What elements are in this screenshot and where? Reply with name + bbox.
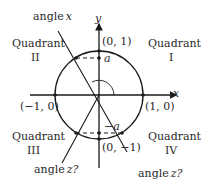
- point-z4-intersect: [120, 131, 124, 135]
- x-axis-label: x: [173, 87, 180, 100]
- point-bottom: [97, 137, 101, 141]
- quadrant-iii-numeral: III: [27, 144, 40, 157]
- point-a-bottom: [97, 131, 101, 135]
- angle-arc: [92, 80, 114, 95]
- label-a-top: a: [104, 52, 111, 65]
- label-top-point: (0, 1): [102, 35, 132, 48]
- quadrant-ii-numeral: II: [31, 51, 40, 64]
- angle-z-q4-label: anglez?: [138, 167, 183, 180]
- unit-circle-diagram: y x (0, 1) (0, −1) (−1, 0) (1, 0) a −a Q…: [0, 0, 214, 188]
- point-x-intersect: [74, 56, 78, 60]
- label-a-bottom: −a: [104, 120, 120, 133]
- point-left: [53, 93, 57, 97]
- point-top: [97, 49, 101, 53]
- angle-x-label: anglex: [33, 10, 73, 23]
- quadrant-i-word: Quadrant: [148, 37, 202, 50]
- label-right-point: (1, 0): [145, 100, 175, 113]
- point-right: [141, 93, 145, 97]
- quadrant-i-numeral: I: [169, 51, 173, 64]
- quadrant-iii-word: Quadrant: [12, 130, 66, 143]
- quadrant-ii-word: Quadrant: [12, 37, 66, 50]
- angle-z-ray-q3: [62, 95, 99, 163]
- label-bottom-point: (0, −1): [102, 141, 141, 154]
- point-z3-intersect: [74, 131, 78, 135]
- angle-z-q3-label: anglez?: [34, 163, 79, 176]
- angle-x-ray: [58, 31, 127, 152]
- quadrant-iv-numeral: IV: [165, 144, 178, 157]
- y-axis-label: y: [94, 12, 102, 25]
- quadrant-iv-word: Quadrant: [148, 130, 202, 143]
- label-left-point: (−1, 0): [20, 100, 59, 113]
- point-a-top: [97, 56, 101, 60]
